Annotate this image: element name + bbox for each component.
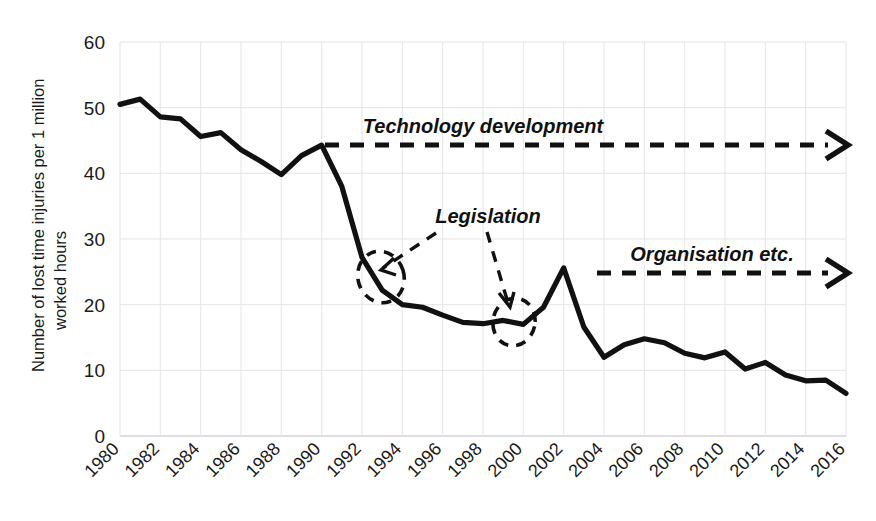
y-axis-title-line2: worked hours — [51, 231, 69, 331]
x-tick-1992: 1992 — [322, 439, 364, 481]
x-tick-2004: 2004 — [564, 439, 606, 481]
x-tick-2010: 2010 — [685, 439, 727, 481]
chart-container: 60 50 40 30 20 10 0 Number of lost time … — [0, 0, 876, 521]
x-tick-1990: 1990 — [282, 439, 324, 481]
x-tick-1980: 1980 — [80, 439, 122, 481]
x-tick-1998: 1998 — [443, 439, 485, 481]
x-tick-1982: 1982 — [121, 439, 163, 481]
legislation-label: Legislation — [435, 205, 541, 227]
y-axis-tick-labels: 60 50 40 30 20 10 0 — [84, 32, 105, 447]
line-chart: 60 50 40 30 20 10 0 Number of lost time … — [0, 0, 876, 521]
x-tick-2012: 2012 — [726, 439, 768, 481]
x-axis-tick-labels: 1980 1982 1984 1986 1988 1990 1992 1994 … — [80, 439, 848, 481]
y-axis-title-line1: Number of lost time injuries per 1 milli… — [29, 79, 47, 372]
x-tick-2016: 2016 — [806, 439, 848, 481]
x-tick-2008: 2008 — [645, 439, 687, 481]
y-tick-40: 40 — [84, 163, 105, 184]
x-tick-2014: 2014 — [766, 439, 808, 481]
x-tick-1994: 1994 — [363, 439, 405, 481]
x-tick-2000: 2000 — [484, 439, 526, 481]
y-tick-30: 30 — [84, 229, 105, 250]
x-tick-1984: 1984 — [161, 439, 203, 481]
y-tick-50: 50 — [84, 98, 105, 119]
y-tick-10: 10 — [84, 360, 105, 381]
y-axis-title: Number of lost time injuries per 1 milli… — [29, 79, 69, 372]
x-tick-1988: 1988 — [242, 439, 284, 481]
x-tick-1996: 1996 — [403, 439, 445, 481]
y-tick-20: 20 — [84, 295, 105, 316]
x-tick-2002: 2002 — [524, 439, 566, 481]
y-tick-60: 60 — [84, 32, 105, 53]
organisation-etc-label: Organisation etc. — [630, 243, 793, 265]
technology-development-label: Technology development — [363, 115, 605, 137]
x-tick-1986: 1986 — [201, 439, 243, 481]
x-tick-2006: 2006 — [605, 439, 647, 481]
